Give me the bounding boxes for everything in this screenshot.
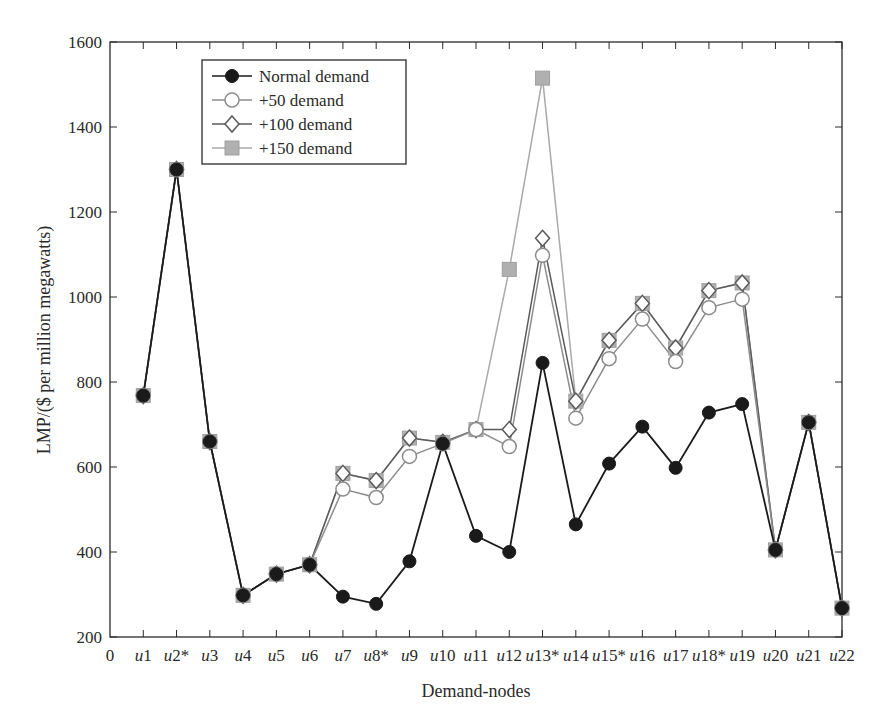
series-markers	[136, 162, 849, 617]
x-tick-label: u8*	[363, 646, 389, 665]
legend: Normal demand+50 demand+100 demand+150 d…	[202, 60, 406, 164]
y-tick-label: 1400	[68, 118, 102, 137]
x-tick-label: u17	[663, 646, 689, 665]
x-tick-label: u22	[829, 646, 855, 665]
y-tick-label: 1000	[68, 288, 102, 307]
series-markers	[136, 163, 849, 616]
y-tick-label: 200	[77, 628, 103, 647]
x-tick-label: u2*	[164, 646, 190, 665]
x-tick-label: u19	[729, 646, 755, 665]
x-tick-label: u13*	[526, 646, 560, 665]
legend-label: +150 demand	[259, 139, 353, 158]
legend-label: +50 demand	[259, 91, 344, 110]
x-tick-label: u12	[497, 646, 522, 665]
lmp-line-chart: 2004006008001000120014001600 0u1u2*u3u4u…	[0, 0, 885, 726]
x-tick-label: u3	[201, 646, 218, 665]
y-tick-label: 600	[77, 458, 103, 477]
x-tick-label: u18*	[692, 646, 726, 665]
series-normal-demand	[143, 170, 842, 609]
x-tick-label: u21	[796, 646, 822, 665]
series--100-demand	[143, 170, 842, 609]
legend-item: +150 demand	[212, 139, 353, 158]
series-markers	[137, 163, 849, 615]
y-axis: 2004006008001000120014001600	[68, 33, 842, 647]
legend-item: +100 demand	[212, 115, 353, 134]
legend-label: Normal demand	[259, 67, 369, 86]
y-tick-label: 800	[77, 373, 103, 392]
x-tick-label: u15*	[592, 646, 626, 665]
x-tick-label: u10	[430, 646, 456, 665]
x-tick-label: u6	[301, 646, 318, 665]
x-tick-label: u20	[763, 646, 789, 665]
x-tick-label: u4	[235, 646, 253, 665]
x-tick-label: u16	[630, 646, 656, 665]
x-tick-label: u5	[268, 646, 285, 665]
x-tick-label: u11	[464, 646, 489, 665]
x-axis-title: Demand-nodes	[422, 681, 531, 701]
y-tick-label: 1600	[68, 33, 102, 52]
series--50-demand	[143, 170, 842, 609]
x-tick-label: u9	[401, 646, 418, 665]
x-tick-label: 0	[106, 646, 115, 665]
y-axis-title: LMP/($ per million megawatts)	[34, 226, 55, 454]
y-tick-label: 1200	[68, 203, 102, 222]
y-tick-label: 400	[77, 543, 103, 562]
legend-item: +50 demand	[212, 91, 344, 110]
x-tick-label: u14	[563, 646, 589, 665]
legend-label: +100 demand	[259, 115, 353, 134]
x-tick-label: u1	[135, 646, 152, 665]
x-tick-label: u7	[334, 646, 352, 665]
